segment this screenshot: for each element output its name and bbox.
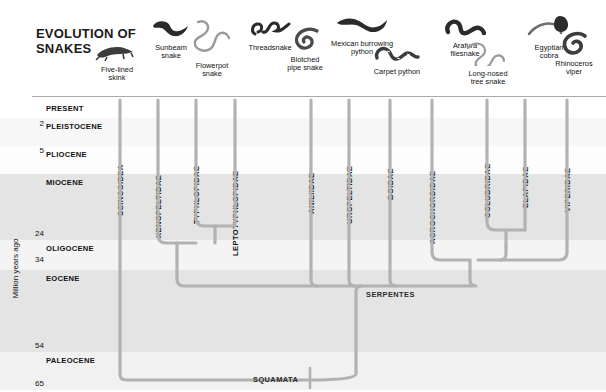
branch-colubroid-stem	[500, 246, 506, 260]
branch-acrochordidae	[432, 100, 470, 260]
branch-serpentes-stem	[310, 286, 362, 380]
tree-snake-icon	[452, 38, 524, 69]
specimen-tree-snake: Long-nosed tree snake	[452, 38, 524, 87]
branch-viperidae	[478, 100, 567, 260]
viper-icon	[542, 30, 606, 59]
cladogram	[0, 96, 606, 392]
specimen-caption: Carpet python	[356, 68, 438, 77]
specimen-carpet-python: Carpet python	[356, 42, 438, 76]
filesnake-icon	[432, 12, 498, 41]
clade-label-squamata: SQUAMATA	[253, 375, 298, 384]
branch-aniliidae	[311, 100, 317, 286]
burrowing-python-icon	[310, 14, 414, 39]
carpet-python-icon	[356, 42, 438, 67]
specimen-caption: Flowerpot snake	[176, 62, 248, 79]
specimen-caption: Five-lined skink	[84, 66, 150, 83]
phylogeny-chart: PRESENTPLEISTOCENEPLIOCENEMIOCENEOLIGOCE…	[0, 96, 606, 392]
clade-label-serpentes: SERPENTES	[366, 290, 415, 299]
diagram-header: EVOLUTION OF SNAKES Five-lined skinkSunb…	[0, 0, 606, 96]
branch-uropeltidae	[349, 100, 355, 286]
branch-advanced-snakes	[362, 260, 476, 286]
branch-typhlopidae	[196, 100, 235, 226]
branch-boidae	[390, 100, 396, 286]
branch-xenopeltidae	[158, 100, 196, 243]
specimen-viper: Rhinoceros viper	[542, 30, 606, 77]
branch-blindsnake-clade	[177, 243, 362, 286]
specimen-caption: Blotched pipe snake	[272, 56, 338, 73]
specimen-caption: Long-nosed tree snake	[452, 70, 524, 87]
branch-colubridae	[487, 100, 525, 230]
specimen-caption: Rhinoceros viper	[542, 60, 606, 77]
